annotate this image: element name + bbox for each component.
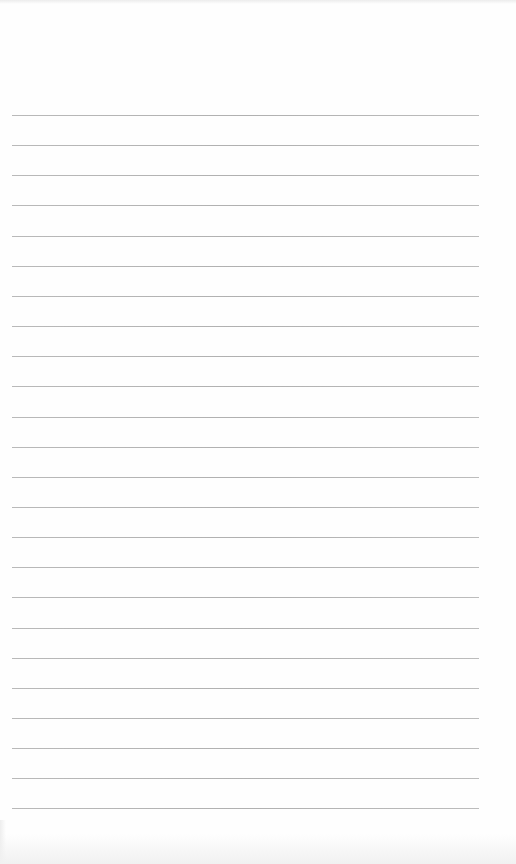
ruled-line [12,236,479,237]
ruled-line [12,145,479,146]
ruled-line [12,296,479,297]
ruled-line [12,115,479,116]
ruled-line [12,537,479,538]
ruled-line [12,597,479,598]
ruled-line [12,748,479,749]
ruled-line [12,175,479,176]
ruled-line [12,567,479,568]
ruled-line [12,688,479,689]
ruled-line [12,808,479,809]
ruled-line [12,658,479,659]
ruled-line [12,326,479,327]
ruled-line [12,628,479,629]
page-top-shadow [0,0,516,4]
ruled-line [12,447,479,448]
ruled-line [12,718,479,719]
ruled-line [12,356,479,357]
lined-paper-page [0,0,516,864]
ruled-line [12,417,479,418]
ruled-line [12,205,479,206]
ruled-line [12,507,479,508]
ruled-line [12,266,479,267]
page-bottom-shadow [0,834,516,864]
ruled-line [12,778,479,779]
ruled-line [12,386,479,387]
ruled-line [12,477,479,478]
